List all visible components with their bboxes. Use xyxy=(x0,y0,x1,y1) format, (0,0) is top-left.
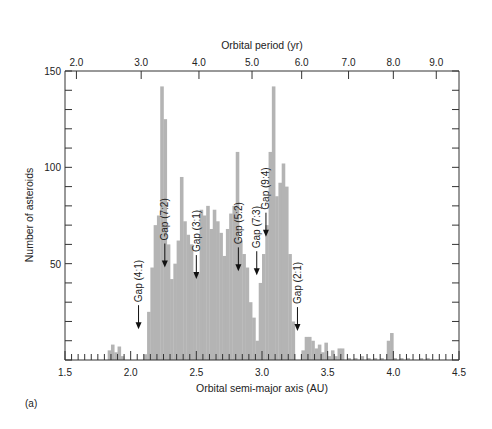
y-tick-label: 150 xyxy=(44,66,61,77)
histogram-bar xyxy=(278,183,282,360)
arrowhead-icon xyxy=(254,268,260,275)
y-axis-label: Number of asteroids xyxy=(23,168,35,263)
gap-label: Gap (2:1) xyxy=(292,262,303,304)
histogram-bar xyxy=(242,254,246,360)
top-tick-label: 2.0 xyxy=(69,57,83,68)
x-tick-label: 2.5 xyxy=(189,367,203,378)
histogram-bar xyxy=(118,347,122,360)
top-tick-label: 3.0 xyxy=(134,57,148,68)
asteroid-histogram-chart: 1.52.02.53.03.54.04.5501001502.03.04.05.… xyxy=(0,0,492,429)
top-tick-label: 7.0 xyxy=(342,57,356,68)
panel-label: (a) xyxy=(25,398,37,409)
top-tick-label: 9.0 xyxy=(429,57,443,68)
histogram-bar xyxy=(213,210,217,360)
histogram-bar xyxy=(262,254,266,360)
histogram-bar xyxy=(144,354,148,360)
histogram-bar xyxy=(361,356,365,360)
histogram-bar xyxy=(206,206,210,360)
gap-annotation: Gap (7:3) xyxy=(251,206,262,275)
gap-annotation: Gap (4:1) xyxy=(133,260,144,329)
y-tick-label: 50 xyxy=(50,259,62,270)
histogram-bars xyxy=(108,86,430,360)
gap-label: Gap (7:3) xyxy=(251,206,262,248)
histogram-bar xyxy=(183,221,187,360)
gap-label: Gap (5:2) xyxy=(233,202,244,244)
x-tick-label: 3.5 xyxy=(321,367,335,378)
histogram-bar xyxy=(223,256,227,360)
histogram-bar xyxy=(341,348,345,360)
histogram-bar xyxy=(249,302,253,360)
histogram-bar xyxy=(259,283,263,360)
histogram-bar xyxy=(147,312,151,360)
top-tick-label: 6.0 xyxy=(295,57,309,68)
histogram-bar xyxy=(209,229,213,360)
top-axis-label: Orbital period (yr) xyxy=(221,39,303,51)
gap-label: Gap (9:4) xyxy=(260,167,271,209)
x-axis-label: Orbital semi-major axis (AU) xyxy=(196,382,328,394)
histogram-bar xyxy=(170,279,174,360)
histogram-bar xyxy=(150,268,154,360)
top-tick-label: 4.0 xyxy=(192,57,206,68)
y-tick-label: 100 xyxy=(44,162,61,173)
histogram-bar xyxy=(177,241,181,360)
arrowhead-icon xyxy=(294,324,300,331)
histogram-bar xyxy=(180,177,184,360)
x-tick-label: 4.0 xyxy=(386,367,400,378)
histogram-bar xyxy=(173,264,177,360)
histogram-bar xyxy=(285,187,289,360)
histogram-bar xyxy=(255,341,259,360)
gap-label: Gap (4:1) xyxy=(133,260,144,302)
histogram-bar xyxy=(272,86,276,360)
histogram-bar xyxy=(387,341,391,360)
histogram-bar xyxy=(308,337,312,360)
histogram-bar xyxy=(167,244,171,360)
histogram-bar xyxy=(334,356,338,360)
gap-annotation: Gap (2:1) xyxy=(292,262,303,331)
arrowhead-icon xyxy=(136,322,142,329)
gap-label: Gap (3:1) xyxy=(191,210,202,252)
x-tick-label: 1.5 xyxy=(58,367,72,378)
histogram-bar xyxy=(219,233,223,360)
histogram-bar xyxy=(252,318,256,360)
histogram-bar xyxy=(111,345,115,360)
histogram-bar xyxy=(186,235,190,360)
x-tick-label: 4.5 xyxy=(452,367,466,378)
histogram-bar xyxy=(203,216,207,361)
histogram-bar xyxy=(315,348,319,360)
histogram-bar xyxy=(321,352,325,360)
x-tick-label: 2.0 xyxy=(124,367,138,378)
x-tick-label: 3.0 xyxy=(255,367,269,378)
histogram-bar xyxy=(246,268,250,360)
histogram-bar xyxy=(275,196,279,360)
histogram-bar xyxy=(265,225,269,360)
top-tick-label: 8.0 xyxy=(386,57,400,68)
histogram-bar xyxy=(193,273,197,360)
histogram-bar xyxy=(301,350,305,360)
histogram-bar xyxy=(190,244,194,360)
histogram-bar xyxy=(239,241,243,360)
gap-label: Gap (7:2) xyxy=(159,198,170,240)
top-tick-label: 5.0 xyxy=(245,57,259,68)
histogram-bar xyxy=(226,229,230,360)
histogram-bar xyxy=(282,163,286,360)
histogram-bar xyxy=(216,221,220,360)
histogram-bar xyxy=(328,356,332,360)
histogram-bar xyxy=(154,225,158,360)
histogram-bar xyxy=(196,273,200,360)
